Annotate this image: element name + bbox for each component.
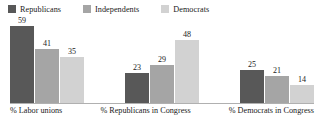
bar-2-2[interactable]: [290, 85, 314, 103]
category-label-0: % Labor unions: [10, 106, 62, 120]
bar-slot-0-2: 35: [60, 22, 84, 103]
bar-group-2: 25 21 14: [240, 22, 314, 103]
bar-0-1[interactable]: [35, 49, 59, 103]
legend-swatch-independents-icon: [83, 5, 91, 13]
bar-1-0[interactable]: [125, 73, 149, 103]
plot-area: 59 41 35 23 29: [0, 22, 322, 104]
bar-value-2-0: 25: [240, 60, 264, 69]
legend-label-republicans: Republicans: [20, 5, 61, 14]
bar-value-2-1: 21: [265, 66, 289, 75]
legend-swatch-republicans-icon: [8, 5, 16, 13]
legend-item-independents[interactable]: Independents: [83, 5, 139, 14]
bar-group-0: 59 41 35: [10, 22, 84, 103]
bar-value-0-0: 59: [10, 16, 34, 25]
bar-2-1[interactable]: [265, 76, 289, 103]
bar-1-2[interactable]: [175, 40, 199, 103]
bar-value-1-2: 48: [175, 30, 199, 39]
category-label-1: % Republicans in Congress: [100, 106, 190, 120]
legend-item-democrats[interactable]: Democrats: [161, 5, 209, 14]
legend-item-republicans[interactable]: Republicans: [8, 5, 61, 14]
bar-slot-0-1: 41: [35, 22, 59, 103]
bar-0-0[interactable]: [10, 26, 34, 103]
bar-slot-2-0: 25: [240, 22, 264, 103]
bar-2-0[interactable]: [240, 70, 264, 103]
chart-legend: Republicans Independents Democrats: [8, 3, 209, 15]
bar-slot-0-0: 59: [10, 22, 34, 103]
category-labels: % Labor unions % Republicans in Congress…: [10, 106, 314, 120]
bar-slot-2-1: 21: [265, 22, 289, 103]
legend-label-democrats: Democrats: [173, 5, 209, 14]
bar-1-1[interactable]: [150, 65, 174, 103]
legend-label-independents: Independents: [95, 5, 139, 14]
bar-slot-1-1: 29: [150, 22, 174, 103]
bar-value-1-1: 29: [150, 55, 174, 64]
bar-0-2[interactable]: [60, 57, 84, 103]
bar-groups: 59 41 35 23 29: [10, 22, 314, 103]
category-label-2: % Democrats in Congress: [229, 106, 314, 120]
bar-group-1: 23 29 48: [125, 22, 199, 103]
bar-value-0-2: 35: [60, 47, 84, 56]
bar-value-0-1: 41: [35, 39, 59, 48]
bar-slot-2-2: 14: [290, 22, 314, 103]
bar-value-1-0: 23: [125, 63, 149, 72]
x-axis-baseline: [10, 103, 314, 104]
bar-value-2-2: 14: [290, 75, 314, 84]
grouped-bar-chart: Republicans Independents Democrats 59 41: [0, 0, 322, 122]
bar-slot-1-0: 23: [125, 22, 149, 103]
legend-swatch-democrats-icon: [161, 5, 169, 13]
bar-slot-1-2: 48: [175, 22, 199, 103]
